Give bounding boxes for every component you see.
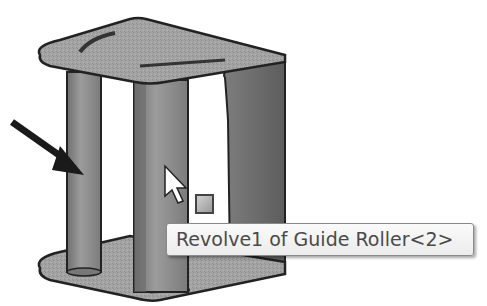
graphics-viewport[interactable]: Revolve1 of Guide Roller<2> <box>0 0 487 306</box>
guide-roller-model[interactable] <box>0 0 487 306</box>
left-roller[interactable] <box>67 72 101 276</box>
selection-tooltip: Revolve1 of Guide Roller<2> <box>166 223 474 256</box>
face-selection-icon <box>195 194 214 214</box>
